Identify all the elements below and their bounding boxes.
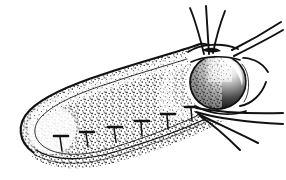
biological-line-drawing [0, 0, 286, 180]
figure-root [0, 0, 286, 180]
